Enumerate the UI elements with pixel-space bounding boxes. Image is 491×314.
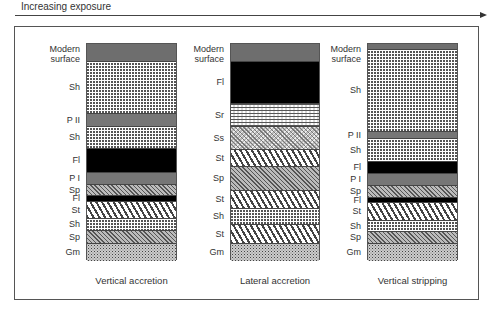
- layer-modern-surface: [231, 44, 319, 62]
- layer-label: Gm: [347, 247, 362, 257]
- layer-label: Sh: [69, 82, 80, 92]
- layer-p-i: [368, 174, 457, 186]
- layer-sh: [87, 219, 176, 231]
- layer-label: Modernsurface: [330, 44, 361, 64]
- layer-gm: [87, 244, 176, 261]
- layer-st: [231, 225, 319, 244]
- column-caption: Vertical stripping: [353, 275, 473, 286]
- layer-p-ii: [87, 114, 176, 127]
- layer-gm: [231, 244, 319, 261]
- layer-label: Ss: [213, 133, 224, 143]
- layer-label: Fl: [354, 162, 362, 172]
- layer-fl: [87, 149, 176, 173]
- layer-sh: [231, 209, 319, 225]
- layer-label: Sp: [350, 232, 361, 242]
- strat-column-2: [230, 43, 320, 260]
- layer-sh: [368, 50, 457, 132]
- layer-label: Modernsurface: [49, 44, 80, 64]
- layer-sp: [368, 186, 457, 198]
- layer-sp: [87, 231, 176, 244]
- layer-fl: [368, 162, 457, 174]
- layer-label: Fl: [73, 193, 81, 203]
- layer-label: Gm: [66, 247, 81, 257]
- layer-label: Sp: [69, 232, 80, 242]
- layer-label: Sh: [350, 85, 361, 95]
- layer-sp: [87, 185, 176, 196]
- layer-label: St: [215, 229, 224, 239]
- layer-modern-surface: [87, 44, 176, 62]
- layer-label: Gm: [210, 247, 225, 257]
- exposure-arrow-line: [15, 15, 483, 16]
- layer-label: Modernsurface: [193, 44, 224, 64]
- layer-label: Sp: [213, 173, 224, 183]
- layer-st: [87, 202, 176, 219]
- layer-st: [231, 191, 319, 209]
- layer-label: Sh: [350, 145, 361, 155]
- layer-gm: [368, 244, 457, 261]
- layer-label: P II: [348, 130, 361, 140]
- layer-label: St: [215, 194, 224, 204]
- layer-sh: [368, 221, 457, 232]
- layer-sp: [231, 167, 319, 191]
- layer-ss: [231, 127, 319, 150]
- arrow-head-icon: [480, 12, 487, 18]
- strat-column-1: [86, 43, 177, 260]
- layer-st: [231, 150, 319, 167]
- layer-p-i: [87, 173, 176, 185]
- layer-label: Sh: [69, 132, 80, 142]
- layer-label: Sh: [213, 211, 224, 221]
- layer-fl: [231, 62, 319, 104]
- strat-column-3: [367, 43, 458, 260]
- layer-sp: [368, 232, 457, 244]
- layer-label: Fl: [354, 195, 362, 205]
- layer-sh: [368, 139, 457, 162]
- layer-label: Sr: [215, 110, 224, 120]
- layer-label: Sh: [69, 219, 80, 229]
- layer-sh: [87, 127, 176, 149]
- arrow-label: Increasing exposure: [21, 1, 111, 12]
- layer-label: Fl: [73, 155, 81, 165]
- layer-label: Sh: [350, 221, 361, 231]
- layer-label: St: [71, 205, 80, 215]
- layer-sr: [231, 104, 319, 127]
- layer-label: P I: [350, 174, 361, 184]
- layer-p-ii: [368, 132, 457, 139]
- layer-label: P I: [69, 173, 80, 183]
- column-caption: Lateral accretion: [215, 275, 335, 286]
- layer-label: St: [215, 153, 224, 163]
- layer-label: Fl: [217, 77, 225, 87]
- layer-label: P II: [67, 115, 80, 125]
- layer-label: St: [352, 206, 361, 216]
- layer-sh: [87, 62, 176, 114]
- layer-st: [368, 203, 457, 221]
- column-caption: Vertical accretion: [72, 275, 192, 286]
